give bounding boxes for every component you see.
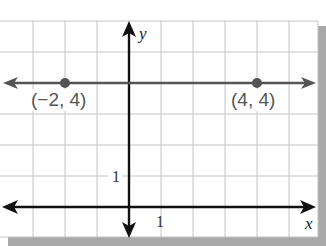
y-tick-label-1: 1 [112, 168, 120, 185]
shadow-bottom [8, 237, 326, 246]
point-neg2-4 [60, 78, 70, 88]
point-4-4 [252, 78, 262, 88]
y-axis-label: y [137, 24, 147, 43]
point-label-neg2-4: (−2, 4) [31, 89, 86, 110]
grid-background [0, 21, 318, 237]
x-axis-label: x [304, 214, 313, 233]
coordinate-graph: (−2, 4) (4, 4) y x 1 1 [0, 0, 326, 246]
point-label-4-4: (4, 4) [231, 89, 275, 110]
x-tick-label-1: 1 [156, 213, 164, 230]
shadow-right [318, 26, 326, 246]
